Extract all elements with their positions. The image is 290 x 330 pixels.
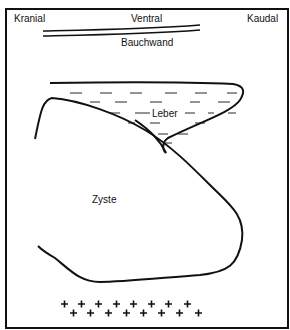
plus-signs xyxy=(61,301,202,317)
label-kaudal: Kaudal xyxy=(247,13,278,24)
label-bauchwand: Bauchwand xyxy=(121,37,173,48)
label-zyste: Zyste xyxy=(92,194,116,205)
abdominal-wall xyxy=(43,25,200,36)
cyst-outline xyxy=(35,98,242,282)
label-kranial: Kranial xyxy=(14,13,45,24)
label-ventral: Ventral xyxy=(131,13,162,24)
label-leber: Leber xyxy=(152,108,178,119)
anatomy-diagram xyxy=(0,0,290,330)
